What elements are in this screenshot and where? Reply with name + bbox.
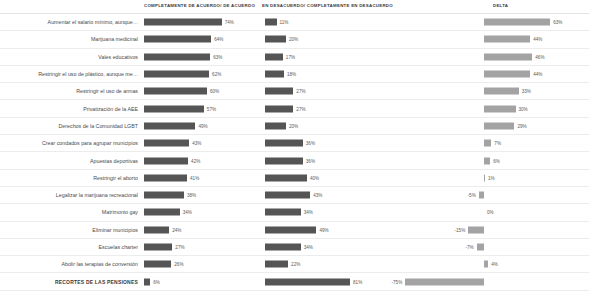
delta-bar-cell: 0% [400,204,589,220]
agree-bar [144,122,195,129]
chart-row: Privatización de la AEE57%27%30% [0,100,589,117]
agree-value: 41% [190,175,199,180]
row-label: Marijuana medicinal [0,36,138,42]
agree-value: 42% [191,158,200,163]
delta-value: 44% [533,72,542,77]
column-header-disagree: EN DESACUERDO/ COMPLETAMENTE EN DESACUER… [262,3,393,8]
chart-row: Restringir el uso de plástico, aunque me… [0,66,589,83]
agree-bar [144,88,207,95]
agree-value: 38% [187,193,196,198]
row-label: Apuestas deportivas [0,158,138,164]
disagree-value: 11% [280,20,289,25]
delta-value: 30% [519,106,528,111]
delta-bar [484,174,485,181]
row-label: RECORTES DE LAS PENSIONES [0,279,138,285]
disagree-value: 43% [313,193,322,198]
disagree-bar [265,244,301,251]
delta-value: 0% [487,210,494,215]
disagree-bar [265,261,288,268]
chart-row: Apuestas deportivas42%36%6% [0,152,589,169]
delta-bar-cell: 63% [400,14,589,30]
agree-bar [144,261,171,268]
chart-rows: Aumentar el salario mínimo, aunque…74%11… [0,14,589,291]
disagree-bar [265,105,293,112]
disagree-value: 18% [287,72,296,77]
agree-value: 63% [213,54,222,59]
delta-bar [484,105,516,112]
row-label: Matrimonio gay [0,209,138,215]
delta-bar [484,261,488,268]
delta-value: 44% [533,37,542,42]
agree-bar-cell: 64% [144,31,258,47]
agree-bar [144,209,180,216]
disagree-bar [265,36,286,43]
agree-value: 49% [198,123,207,128]
delta-value: -75% [392,279,403,284]
delta-bar [484,53,532,60]
delta-value: 7% [494,141,501,146]
agree-bar [144,278,150,285]
row-label: Restringir el uso de armas [0,88,138,94]
delta-value: 46% [535,54,544,59]
disagree-bar [265,19,277,26]
agree-value: 57% [207,106,216,111]
agree-value: 24% [172,227,181,232]
delta-bar [484,122,514,129]
row-label: Privatización de la AEE [0,106,138,112]
disagree-value: 34% [304,210,313,215]
agree-value: 27% [175,245,184,250]
delta-value: 1% [488,175,495,180]
disagree-bar [265,53,283,60]
delta-bar [484,36,530,43]
disagree-bar [265,226,316,233]
delta-bar [405,278,484,285]
disagree-bar [265,140,303,147]
row-label: Legalizar la marijuana recreacional [0,192,138,198]
delta-value: 4% [491,262,498,267]
delta-bar-cell: 44% [400,31,589,47]
delta-bar-cell: -15% [400,222,589,238]
delta-bar [477,244,484,251]
agree-bar [144,71,209,78]
survey-bar-chart: COMPLETAMENTE DE ACUERDO/ DE ACUERDO EN … [0,0,589,292]
delta-bar [484,88,519,95]
delta-bar [484,157,490,164]
agree-bar-cell: 26% [144,256,258,272]
disagree-value: 34% [304,245,313,250]
agree-bar-cell: 74% [144,14,258,30]
delta-bar-cell: 30% [400,100,589,116]
row-label: Restringir el aborto [0,175,138,181]
disagree-value: 20% [289,37,298,42]
agree-bar-cell: 57% [144,100,258,116]
chart-row: Restringir el aborto41%40%1% [0,170,589,187]
row-label: Crear condados para agrupar municipios [0,140,138,146]
agree-bar [144,192,184,199]
disagree-value: 17% [286,54,295,59]
row-label: Restringir el uso de plástico, aunque me… [0,71,138,77]
agree-bar-cell: 34% [144,204,258,220]
delta-bar-cell: -7% [400,239,589,255]
disagree-bar [265,192,310,199]
agree-bar-cell: 43% [144,135,258,151]
delta-bar-cell: 4% [400,256,589,272]
disagree-bar [265,71,284,78]
delta-value: -7% [465,245,473,250]
agree-bar-cell: 27% [144,239,258,255]
disagree-value: 40% [310,175,319,180]
row-label: Abolir las terapias de conversión [0,261,138,267]
disagree-value: 27% [296,89,305,94]
agree-bar [144,19,222,26]
chart-row: Escuelas charter27%34%-7% [0,239,589,256]
chart-row: Aumentar el salario mínimo, aunque…74%11… [0,14,589,31]
delta-bar-cell: 29% [400,118,589,134]
chart-row: RECORTES DE LAS PENSIONES6%81%-75% [0,273,589,290]
chart-row: Abolir las terapias de conversión26%22%4… [0,256,589,273]
chart-row: Marijuana medicinal64%20%44% [0,31,589,48]
delta-value: -5% [468,193,476,198]
disagree-value: 22% [291,262,300,267]
agree-value: 62% [212,72,221,77]
chart-row: Derechos de la Comunidad LGBT49%20%29% [0,118,589,135]
agree-value: 60% [210,89,219,94]
agree-bar [144,140,189,147]
agree-bar-cell: 6% [144,273,258,289]
